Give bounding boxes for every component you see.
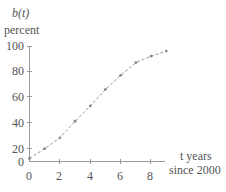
data-point bbox=[28, 157, 31, 160]
data-point bbox=[104, 88, 107, 91]
series-line bbox=[30, 51, 167, 158]
data-point bbox=[43, 147, 46, 150]
x-axis bbox=[29, 159, 165, 164]
data-point bbox=[59, 136, 62, 139]
data-point bbox=[119, 74, 122, 77]
data-point bbox=[165, 50, 168, 53]
data-series-b bbox=[28, 50, 168, 160]
plot-area bbox=[0, 0, 226, 192]
data-point bbox=[89, 105, 92, 108]
data-point bbox=[74, 120, 77, 123]
data-point bbox=[150, 55, 153, 58]
data-point bbox=[135, 61, 138, 64]
y-axis bbox=[27, 46, 32, 162]
